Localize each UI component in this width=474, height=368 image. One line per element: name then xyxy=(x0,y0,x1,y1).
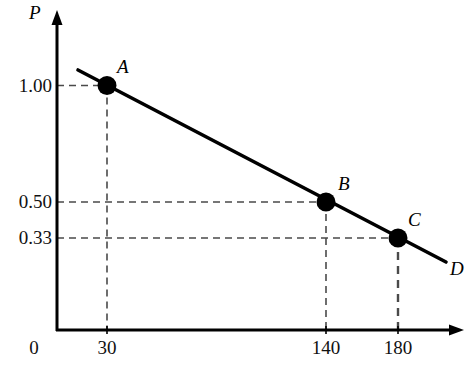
data-point-c xyxy=(389,229,408,248)
data-point-a xyxy=(98,76,117,95)
x-tick-label-180: 180 xyxy=(368,338,428,357)
point-label-c: C xyxy=(408,210,421,229)
point-label-a: A xyxy=(117,57,129,76)
x-tick-label-0: 0 xyxy=(14,338,54,357)
x-axis xyxy=(56,325,464,336)
y-axis xyxy=(52,10,63,331)
y-tick-label-3: 0.33 xyxy=(2,228,52,247)
x-tick-label-30: 30 xyxy=(82,338,132,357)
guide-lines xyxy=(57,86,398,331)
point-label-b: B xyxy=(338,174,350,193)
curve-label-d: D xyxy=(450,259,464,278)
x-tick-label-140: 140 xyxy=(296,338,356,357)
data-point-b xyxy=(317,193,336,212)
demand-curve-figure: P 1.00 0.50 0.33 0 30 140 180 A B C D xyxy=(0,0,474,368)
y-tick-label-1: 1.00 xyxy=(2,76,52,95)
chart-plot-area xyxy=(0,0,474,368)
y-tick-label-2: 0.50 xyxy=(2,192,52,211)
y-axis-title: P xyxy=(29,3,41,22)
